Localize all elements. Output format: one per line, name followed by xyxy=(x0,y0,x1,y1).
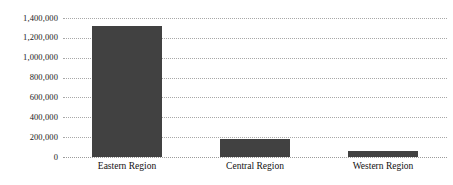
x-axis-category-label: Western Region xyxy=(319,160,447,173)
x-axis-category-labels: Eastern RegionCentral RegionWestern Regi… xyxy=(63,160,447,182)
y-axis-tick-label: 1,400,000 xyxy=(0,14,58,23)
y-axis-tick-label: 1,200,000 xyxy=(0,33,58,42)
y-axis-tick-label: 600,000 xyxy=(0,93,58,102)
y-axis-tick-label: 1,000,000 xyxy=(0,53,58,62)
bar[interactable] xyxy=(220,139,290,157)
y-axis-tick-label: 400,000 xyxy=(0,113,58,122)
y-axis-tick-label: 800,000 xyxy=(0,73,58,82)
y-axis-tick-label: 0 xyxy=(0,153,58,162)
gridline xyxy=(63,157,447,158)
bar-chart: 0200,000400,000600,000800,0001,000,0001,… xyxy=(0,0,453,185)
bar[interactable] xyxy=(348,151,418,157)
bars-layer xyxy=(63,18,447,157)
y-axis-tick-label: 200,000 xyxy=(0,133,58,142)
x-axis-category-label: Eastern Region xyxy=(63,160,191,173)
bar[interactable] xyxy=(92,26,162,157)
y-axis-tick-labels: 0200,000400,000600,000800,0001,000,0001,… xyxy=(0,0,58,185)
x-axis-category-label: Central Region xyxy=(191,160,319,173)
